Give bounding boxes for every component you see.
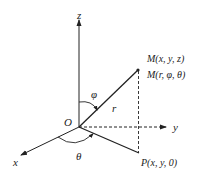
point-M-cartesian-label: M(x, y, z) — [146, 53, 185, 65]
z-axis-label: z — [76, 9, 82, 21]
theta-label: θ — [76, 150, 82, 162]
phi-label: φ — [91, 88, 97, 100]
radius-line-OM — [79, 70, 138, 127]
theta-angle-arc — [58, 134, 93, 143]
projection-line-OP — [79, 127, 139, 153]
point-M-dot — [136, 68, 139, 71]
point-P-label: P(x, y, 0) — [140, 157, 178, 169]
x-axis — [21, 127, 79, 155]
phi-angle-arc — [79, 102, 97, 110]
spherical-coordinate-diagram: z y x O M(x, y, z) M(r, φ, θ) P(x, y, 0)… — [0, 0, 203, 188]
x-axis-label: x — [12, 156, 18, 168]
origin-label: O — [64, 116, 72, 128]
point-M-spherical-label: M(r, φ, θ) — [146, 69, 186, 81]
radius-label: r — [112, 102, 117, 114]
y-axis-label: y — [172, 121, 178, 133]
